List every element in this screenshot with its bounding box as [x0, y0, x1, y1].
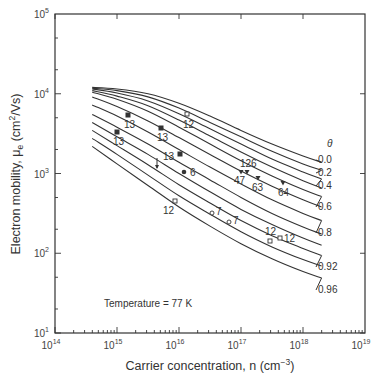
- data-point-label: 13: [163, 151, 175, 162]
- filled-square-marker: [159, 126, 164, 131]
- x-tick-label: 1017: [228, 338, 247, 351]
- data-point-label: 7: [233, 215, 239, 226]
- y-tick-label: 105: [34, 7, 49, 20]
- filled-circle-marker: [182, 170, 187, 175]
- mobility-chart: 101410151016101710181019 105104103102101…: [0, 0, 388, 380]
- x-tick-label: 1018: [290, 338, 309, 351]
- theta-label-0-6: 0.6: [318, 201, 332, 212]
- y-tick-label: 104: [34, 87, 49, 100]
- data-point-label: 6: [190, 167, 196, 178]
- x-axis-title: Carrier concentration, n (cm−3): [126, 357, 295, 373]
- data-point-label: 12: [183, 119, 195, 130]
- x-tick-label: 1016: [166, 338, 185, 351]
- theta-label-0-8: 0.8: [318, 227, 332, 238]
- data-points: 1313131312612774712663641212: [113, 112, 296, 244]
- theta-label-0-0: 0.0: [318, 154, 332, 165]
- data-point-label: 63: [252, 182, 264, 193]
- theta-label-0-4: 0.4: [318, 180, 332, 191]
- curve-theta-0-6: [92, 92, 321, 196]
- curve-theta-0-5: [92, 91, 321, 188]
- x-tick-labels: 101410151016101710181019: [42, 338, 371, 351]
- arrow-head: [155, 165, 159, 169]
- x-tick-label: 1019: [352, 338, 371, 351]
- theta-label-0-2: 0.2: [318, 167, 332, 178]
- open-circle-marker: [227, 220, 231, 224]
- y-tick-label: 103: [34, 167, 49, 180]
- x-tick-label: 1014: [42, 338, 61, 351]
- filled-square-marker: [178, 152, 183, 157]
- data-point-label: 13: [124, 119, 136, 130]
- data-point-label: 12: [163, 205, 175, 216]
- theta-labels: 0.00.20.40.60.80.920.96: [316, 154, 338, 295]
- theta-label-0-96: 0.96: [318, 284, 338, 295]
- open-square-marker: [278, 236, 282, 240]
- data-point-label: 12: [265, 226, 277, 237]
- theta-label-0-92: 0.92: [318, 261, 338, 272]
- temperature-annotation: Temperature = 77 K: [104, 298, 192, 309]
- data-point-label: 7: [216, 206, 222, 217]
- y-axis-title: Electron mobility, μe (cm2/Vs): [7, 94, 25, 255]
- open-square-marker: [268, 239, 272, 243]
- data-point-label: 13: [157, 132, 169, 143]
- y-tick-label: 101: [34, 326, 49, 339]
- curve-theta-0-88: [92, 123, 321, 246]
- y-tick-label: 102: [34, 246, 49, 259]
- data-point-label: 13: [113, 136, 125, 147]
- open-circle-marker: [210, 211, 214, 215]
- open-square-marker: [173, 199, 177, 203]
- y-tick-labels: 105104103102101: [34, 7, 49, 339]
- filled-square-marker: [126, 113, 131, 118]
- data-point-label: 126: [240, 158, 257, 169]
- legend-title: θ: [327, 138, 333, 149]
- data-point-label: 12: [284, 233, 296, 244]
- data-point-label: 64: [278, 187, 290, 198]
- open-square-marker: [185, 112, 189, 116]
- triangle-down-marker: [281, 181, 286, 186]
- x-tick-label: 1015: [104, 338, 123, 351]
- filled-square-marker: [115, 130, 120, 135]
- data-point-label: 47: [234, 175, 246, 186]
